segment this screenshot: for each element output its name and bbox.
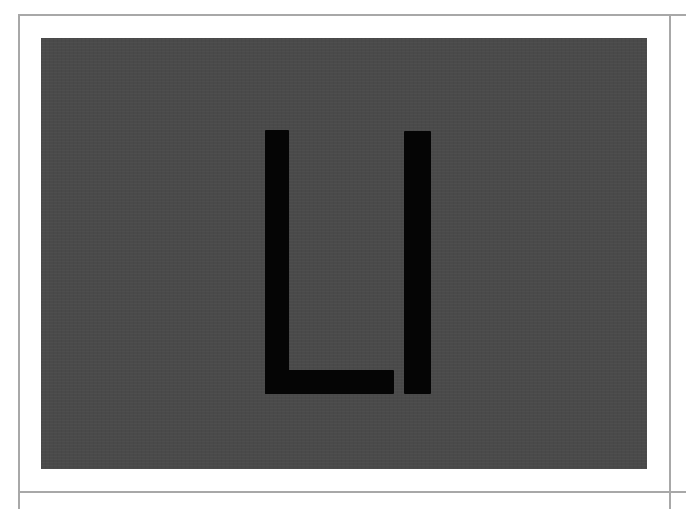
letter-i [404, 131, 431, 394]
dark-gray-panel: LI [41, 38, 647, 469]
frame-line-left [18, 14, 20, 509]
letter-l-foot [265, 370, 394, 394]
frame-line-bottom [18, 491, 686, 493]
letter-l-stem [265, 130, 289, 394]
frame-line-right [669, 14, 671, 509]
frame-line-top [18, 14, 686, 16]
